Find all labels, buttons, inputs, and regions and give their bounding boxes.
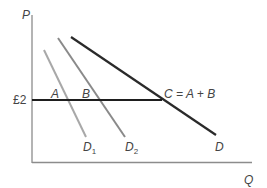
diagram-canvas <box>0 0 267 188</box>
d2-label-main: D <box>125 140 134 154</box>
d1-label-main: D <box>83 140 92 154</box>
price-label: £2 <box>13 94 26 106</box>
point-b-label: B <box>82 88 90 100</box>
d2-label-sub: 2 <box>134 147 138 156</box>
demand-curve-d2 <box>58 38 125 137</box>
d-label: D <box>215 141 224 153</box>
market-demand-curve-d <box>71 37 216 135</box>
d2-label: D2 <box>125 141 138 156</box>
d1-label: D1 <box>83 141 96 156</box>
y-axis-label: P <box>22 9 30 21</box>
d1-label-sub: 1 <box>92 147 96 156</box>
point-c-label: C = A + B <box>164 88 215 100</box>
demand-aggregation-diagram: P Q £2 A B C = A + B D1 D2 D <box>0 0 267 188</box>
point-a-label: A <box>51 88 59 100</box>
x-axis-label: Q <box>244 174 253 186</box>
